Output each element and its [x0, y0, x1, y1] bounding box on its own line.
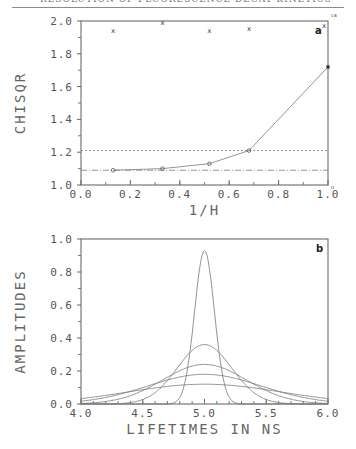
- distribution-curve: [81, 384, 328, 398]
- y-axis-title: CHISQR: [12, 72, 28, 135]
- distribution-curve: [81, 251, 328, 405]
- y-tick-label: 0.2: [50, 365, 73, 378]
- y-tick-label: 1.4: [50, 113, 73, 126]
- y-tick-label: 0.0: [50, 398, 73, 411]
- x-tick-label: 5.5: [255, 407, 278, 420]
- x-marker: x: [207, 27, 211, 35]
- y-axis-title: AMPLITUDES: [12, 269, 28, 373]
- y-tick-label: 1.8: [50, 48, 73, 61]
- y-tick-label: 1.0: [50, 233, 73, 246]
- panel-label-b: b: [316, 243, 323, 254]
- x-marker: x: [322, 22, 326, 30]
- y-tick-label: 1.2: [50, 146, 73, 159]
- x-tick-label: 4.5: [131, 407, 154, 420]
- y-tick-label: 0.6: [50, 299, 73, 312]
- figure: 0.00.20.40.60.81.01.01.21.41.61.82.01/HC…: [0, 0, 356, 449]
- chart-panel-b: 4.04.55.05.56.00.00.20.40.60.81.0LIFETIM…: [12, 233, 339, 437]
- x-marker: x: [160, 19, 164, 27]
- corner-marker: o: [331, 184, 334, 190]
- plot-frame: [81, 239, 328, 404]
- distribution-curve: [81, 374, 328, 401]
- x-marker: x: [111, 27, 115, 35]
- x-axis-title: 1/H: [189, 202, 220, 218]
- plot-frame: [81, 21, 328, 185]
- y-tick-label: 1.0: [50, 179, 73, 192]
- x-tick-label: 0.2: [119, 188, 142, 201]
- x-tick-label: 5.0: [193, 407, 216, 420]
- x-tick-label: 0.4: [168, 188, 191, 201]
- x-axis-title: LIFETIMES IN NS: [126, 421, 282, 437]
- x-marker: x: [247, 25, 251, 33]
- x-tick-label: 6.0: [317, 407, 340, 420]
- panel-label-a: a: [315, 25, 322, 36]
- corner-annotation: ca: [331, 12, 337, 18]
- y-tick-label: 1.6: [50, 81, 73, 94]
- chisqr-line: [113, 67, 328, 170]
- y-tick-label: 0.8: [50, 266, 73, 279]
- chart-panel-a: 0.00.20.40.60.81.01.01.21.41.61.82.01/HC…: [12, 12, 339, 218]
- y-tick-label: 2.0: [50, 15, 73, 28]
- x-tick-label: 1.0: [317, 188, 340, 201]
- x-tick-label: 0.6: [218, 188, 241, 201]
- y-tick-label: 0.4: [50, 332, 73, 345]
- data-point-marker: [326, 65, 329, 68]
- x-tick-label: 0.8: [267, 188, 290, 201]
